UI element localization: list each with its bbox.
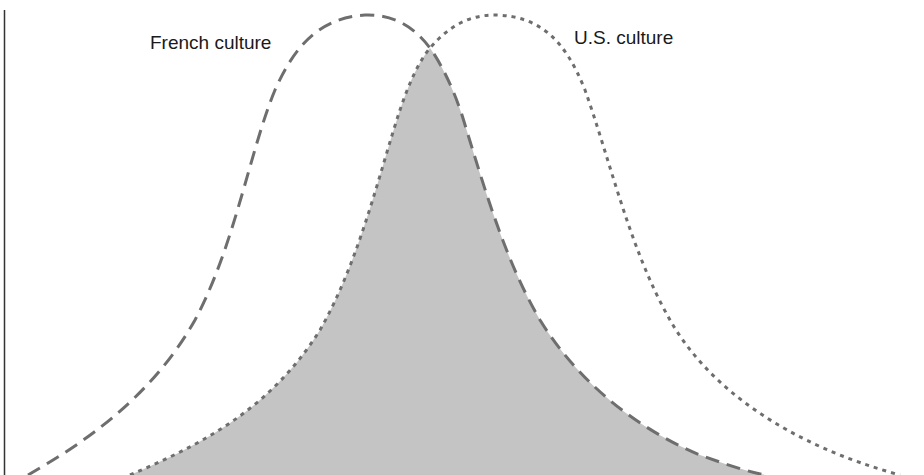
- overlap-region: [130, 48, 765, 475]
- french-culture-label: French culture: [150, 33, 271, 52]
- us-culture-label: U.S. culture: [574, 28, 673, 47]
- distribution-diagram: [0, 0, 924, 475]
